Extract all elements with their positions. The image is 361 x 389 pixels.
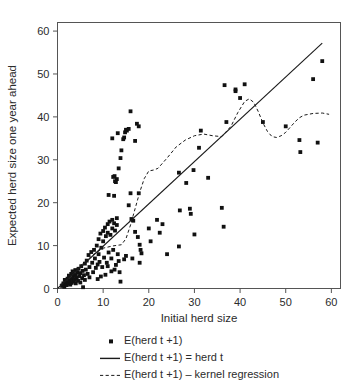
data-point — [112, 194, 116, 198]
data-point — [96, 277, 100, 281]
data-point — [117, 166, 121, 170]
data-point — [165, 252, 169, 256]
data-point — [82, 273, 86, 277]
data-point — [122, 136, 126, 140]
data-point — [199, 129, 203, 133]
legend-item-1[interactable]: E(herd t +1) = herd t — [100, 351, 223, 363]
data-point — [118, 270, 122, 274]
data-point — [189, 212, 193, 216]
data-point — [155, 218, 159, 222]
data-point — [113, 229, 117, 233]
y-axis-title: Expected herd size one year ahead — [6, 65, 18, 246]
data-point — [223, 83, 227, 87]
y-tick-label: 30 — [37, 154, 49, 166]
data-point — [104, 234, 108, 238]
scatter-points-group — [60, 59, 324, 289]
data-point — [298, 138, 302, 142]
data-point — [97, 237, 101, 241]
x-tick-label: 40 — [234, 296, 246, 308]
data-point — [107, 251, 111, 255]
figure-container: 01020304050600102030405060Initial herd s… — [0, 0, 361, 389]
data-point — [119, 280, 123, 284]
data-point — [193, 233, 197, 237]
data-point — [83, 278, 87, 282]
y-tick-label: 60 — [37, 25, 49, 37]
x-tick-label: 60 — [325, 296, 337, 308]
data-point — [222, 225, 226, 229]
data-point — [188, 207, 192, 211]
data-point — [120, 148, 124, 152]
data-point — [111, 175, 115, 179]
data-point — [139, 248, 143, 252]
data-point — [102, 256, 106, 260]
data-point — [224, 120, 228, 124]
data-point — [220, 206, 224, 210]
data-point — [284, 124, 288, 128]
data-point — [109, 233, 113, 237]
data-point — [115, 223, 119, 227]
data-point — [138, 243, 142, 247]
data-point — [107, 193, 111, 197]
y-tick-label: 20 — [37, 197, 49, 209]
data-point — [110, 136, 114, 140]
data-point — [133, 139, 137, 143]
data-point — [197, 146, 201, 150]
data-point — [92, 248, 96, 252]
data-point — [115, 216, 119, 220]
data-point — [124, 254, 128, 258]
data-point — [129, 109, 133, 113]
data-point — [86, 272, 90, 276]
data-point — [238, 96, 242, 100]
legend-item-0[interactable]: E(herd t +1) — [109, 334, 182, 346]
data-point — [113, 179, 117, 183]
data-point — [95, 244, 99, 248]
legend-item-2[interactable]: E(herd t +1) – kernel regression — [100, 368, 279, 380]
legend-label: E(herd t +1) = herd t — [124, 351, 223, 363]
data-point — [100, 265, 104, 269]
data-point — [78, 281, 82, 285]
data-point — [298, 150, 302, 154]
y-tick-label: 10 — [37, 240, 49, 252]
data-point — [147, 227, 151, 231]
x-axis-title: Initial herd size — [161, 312, 238, 324]
data-point — [127, 127, 131, 131]
data-point — [97, 252, 101, 256]
y-tick-label: 50 — [37, 68, 49, 80]
data-point — [320, 59, 324, 63]
y-tick-label: 0 — [43, 283, 49, 295]
data-point — [206, 176, 210, 180]
data-point — [84, 268, 88, 272]
data-point — [243, 82, 247, 86]
data-point — [91, 270, 95, 274]
data-point — [161, 222, 165, 226]
x-tick-label: 50 — [280, 296, 292, 308]
data-point — [94, 266, 98, 270]
kernel-regression-line — [60, 99, 329, 285]
data-point — [106, 264, 110, 268]
scatter-plot: 01020304050600102030405060Initial herd s… — [0, 0, 361, 389]
data-point — [103, 226, 107, 230]
data-point — [114, 263, 118, 267]
data-point — [316, 141, 320, 145]
identity-line — [58, 43, 323, 288]
data-point — [129, 191, 133, 195]
data-point — [119, 156, 123, 160]
data-point — [184, 181, 188, 185]
data-point — [117, 259, 121, 263]
data-point — [136, 235, 140, 239]
data-point — [93, 257, 97, 261]
data-point — [109, 269, 113, 273]
data-point — [105, 261, 109, 265]
legend-label: E(herd t +1) – kernel regression — [124, 368, 279, 380]
x-tick-label: 0 — [54, 296, 60, 308]
legend-label: E(herd t +1) — [124, 334, 182, 346]
data-point — [90, 261, 94, 265]
x-tick-label: 30 — [188, 296, 200, 308]
data-point — [110, 218, 114, 222]
y-tick-label: 40 — [37, 111, 49, 123]
data-point — [234, 88, 238, 92]
x-tick-label: 20 — [143, 296, 155, 308]
data-point — [109, 257, 113, 261]
data-point — [88, 275, 92, 279]
data-point — [140, 251, 144, 255]
